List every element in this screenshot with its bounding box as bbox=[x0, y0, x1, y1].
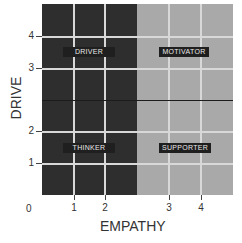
gridline-y1 bbox=[42, 163, 233, 165]
quadrant-label-supporter: SUPPORTER bbox=[159, 143, 211, 153]
y-tickmark-4 bbox=[36, 36, 42, 37]
quadrant-label-driver: DRIVER bbox=[63, 47, 115, 57]
x-tick-1: 1 bbox=[67, 202, 81, 213]
x-tickmark-2 bbox=[105, 195, 106, 200]
x-tickmark-4 bbox=[201, 195, 202, 200]
quadrant-label-motivator: MOTIVATOR bbox=[159, 47, 209, 57]
gridline-y3 bbox=[42, 68, 233, 70]
y-axis-label: DRIVE bbox=[8, 68, 24, 128]
x-tickmark-1 bbox=[74, 195, 75, 200]
x-axis-label: EMPATHY bbox=[100, 218, 166, 234]
gridline-y2 bbox=[42, 131, 233, 133]
y-tickmark-2 bbox=[36, 131, 42, 132]
y-tickmark-3 bbox=[36, 68, 42, 69]
x-tick-4: 4 bbox=[194, 202, 208, 213]
quadrant-label-thinker: THINKER bbox=[63, 143, 115, 153]
x-tickmark-3 bbox=[169, 195, 170, 200]
gridline-y4 bbox=[42, 36, 233, 38]
midline bbox=[42, 100, 233, 101]
y-tick-4: 4 bbox=[20, 30, 34, 41]
x-tick-2: 2 bbox=[98, 202, 112, 213]
origin-label: 0 bbox=[26, 203, 32, 214]
x-tick-3: 3 bbox=[162, 202, 176, 213]
y-tickmark-1 bbox=[36, 163, 42, 164]
quadrant-plot: DRIVER MOTIVATOR THINKER SUPPORTER bbox=[42, 4, 233, 195]
y-tick-1: 1 bbox=[20, 157, 34, 168]
